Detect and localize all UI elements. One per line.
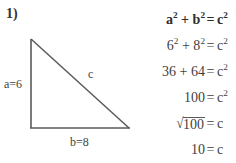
equation-row: 100 = c2 — [136, 85, 236, 111]
equation-row: a2 + b2 = c2 — [136, 7, 236, 33]
equation-rhs: c — [216, 142, 236, 158]
equation-lhs: 36 + 64 — [136, 64, 205, 80]
leg-a-label: a=6 — [4, 78, 22, 90]
equation-relation: = — [205, 64, 216, 80]
equation-row: 10 = c — [136, 137, 236, 163]
triangle-drawing — [0, 22, 136, 163]
equation-relation: = — [205, 38, 216, 54]
equation-lhs: √ 100 — [136, 116, 205, 133]
equation-lhs: 10 — [136, 142, 205, 158]
problem-number-label: 1) — [6, 7, 18, 21]
radical-sign: √ — [176, 115, 183, 130]
worksheet-page: 1) a=6 c b=8 a2 + b2 = c2 62 + 82 = c2 3… — [0, 0, 236, 163]
square-root-icon: √ 100 — [176, 116, 205, 133]
equation-lhs: 62 + 82 — [136, 38, 205, 54]
equation-relation: = — [205, 142, 216, 158]
equation-row: 62 + 82 = c2 — [136, 33, 236, 59]
equation-rhs: c2 — [216, 38, 236, 54]
leg-b-label: b=8 — [70, 136, 89, 148]
equation-row: √ 100 = c — [136, 111, 236, 137]
right-triangle-figure: a=6 c b=8 — [0, 22, 136, 163]
equation-rhs: c2 — [216, 12, 236, 28]
triangle-hypotenuse — [31, 39, 129, 128]
equation-lhs: 100 — [136, 90, 205, 106]
equation-relation: = — [205, 116, 216, 132]
equation-rhs: c2 — [216, 90, 236, 106]
radicand: 100 — [183, 117, 205, 133]
equation-rhs: c — [216, 116, 236, 132]
hypotenuse-c-label: c — [88, 68, 93, 80]
equation-relation: = — [205, 90, 216, 106]
equation-row: 36 + 64 = c2 — [136, 59, 236, 85]
solution-steps: a2 + b2 = c2 62 + 82 = c2 36 + 64 = c2 1… — [136, 0, 236, 163]
equation-rhs: c2 — [216, 64, 236, 80]
equation-lhs: a2 + b2 — [136, 12, 205, 28]
equation-relation: = — [205, 12, 216, 28]
